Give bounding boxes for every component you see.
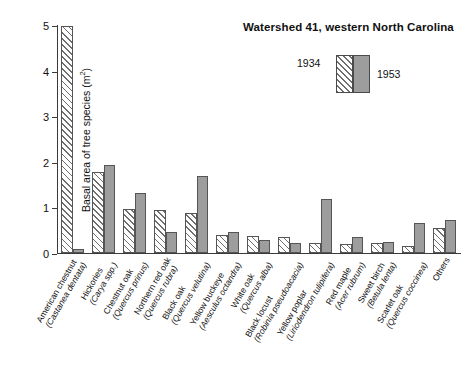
bar-1953 <box>321 199 333 253</box>
bar-group <box>185 25 208 253</box>
bar-1934 <box>371 243 383 253</box>
bar-1934 <box>247 236 259 253</box>
y-tick-label: 0 <box>43 248 49 260</box>
bar-group <box>92 25 115 253</box>
y-tick-mark <box>52 26 57 27</box>
bar-group <box>123 25 146 253</box>
bar-1953 <box>290 243 302 253</box>
bar-group <box>154 25 177 253</box>
y-tick-label: 4 <box>43 66 49 78</box>
bar-group <box>433 25 456 253</box>
bar-1934 <box>92 172 104 253</box>
y-tick-label: 1 <box>43 202 49 214</box>
bar-1953 <box>445 220 457 253</box>
bar-group <box>216 25 239 253</box>
y-tick-label: 3 <box>43 111 49 123</box>
x-tick-label-common: Others <box>431 256 452 283</box>
bar-1953 <box>259 240 271 253</box>
bar-1934 <box>309 243 321 253</box>
x-axis-labels: American chestnut(Castanea dentata)Hicko… <box>57 256 461 376</box>
bar-1934 <box>123 209 135 253</box>
x-axis-line <box>57 253 461 254</box>
bar-1934 <box>278 237 290 253</box>
bar-1953 <box>383 242 395 253</box>
bar-group <box>402 25 425 253</box>
y-tick-mark <box>52 254 57 255</box>
y-tick-label: 2 <box>43 157 49 169</box>
bar-1953 <box>104 165 116 253</box>
bar-group <box>309 25 332 253</box>
bar-group <box>247 25 270 253</box>
bar-groups <box>58 25 461 253</box>
bar-1953 <box>352 237 364 253</box>
y-tick-label: 5 <box>43 20 49 32</box>
bar-group <box>278 25 301 253</box>
bar-1953 <box>414 223 426 253</box>
bar-group <box>340 25 363 253</box>
bar-1934 <box>402 246 414 253</box>
bar-group <box>61 25 84 253</box>
bar-1934 <box>185 213 197 253</box>
bar-1934 <box>340 244 352 253</box>
bar-1934 <box>154 210 166 253</box>
bar-1934 <box>433 228 445 253</box>
y-tick-mark <box>52 163 57 164</box>
y-tick-mark <box>52 117 57 118</box>
x-tick-label: Others <box>431 256 452 283</box>
bar-1934 <box>216 235 228 253</box>
bar-1934 <box>61 26 73 253</box>
y-tick-mark <box>52 72 57 73</box>
bar-1953 <box>197 176 209 253</box>
bar-1953 <box>166 232 178 253</box>
y-tick-mark <box>52 208 57 209</box>
bar-group <box>371 25 394 253</box>
plot-area: 012345 Basal area of tree species (m2) <box>57 25 461 254</box>
bar-chart: Watershed 41, western North Carolina 193… <box>0 0 470 378</box>
bar-1953 <box>135 193 147 253</box>
bar-1953 <box>228 232 240 253</box>
bar-1953 <box>73 249 85 253</box>
